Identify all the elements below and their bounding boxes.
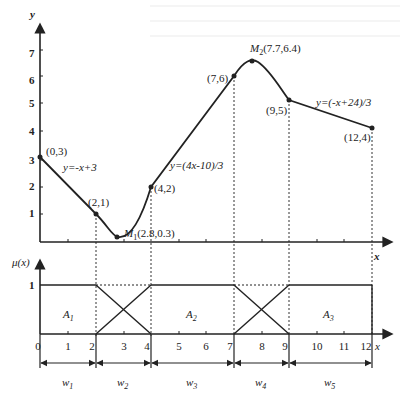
set-label-a2: A2 [185, 308, 197, 323]
svg-text:8: 8 [259, 340, 265, 352]
figure: y x 1 2 3 4 5 6 7 [0, 0, 408, 394]
label-point-9-5: (9,5) [266, 104, 287, 117]
piecewise-curve [40, 60, 372, 237]
svg-text:9: 9 [282, 340, 288, 352]
svg-text:10: 10 [312, 340, 324, 352]
svg-text:11: 11 [339, 340, 350, 352]
width-label-w2: w2 [117, 376, 128, 391]
label-point-2-1: (2,1) [88, 196, 109, 209]
top-chart: y x 1 2 3 4 5 6 7 [28, 8, 388, 336]
label-m1: M1(2.8,0.3) [123, 227, 175, 242]
svg-text:2: 2 [29, 180, 35, 192]
svg-text:7: 7 [227, 340, 233, 352]
svg-text:6: 6 [203, 340, 209, 352]
width-label-w3: w3 [186, 376, 197, 391]
y-axis-label: y [28, 8, 35, 20]
label-m2: M2(7.7,6.4) [249, 42, 301, 57]
svg-text:4: 4 [144, 340, 150, 352]
label-point-0-3: (0,3) [46, 145, 67, 158]
width-label-w5: w5 [324, 376, 335, 391]
mu-axis-label: μ(x) [11, 256, 30, 269]
label-point-12-4: (12,4) [344, 131, 371, 144]
equation-3: y=(-x+24)/3 [315, 96, 372, 109]
svg-text:4: 4 [29, 125, 35, 137]
svg-text:7: 7 [29, 47, 35, 59]
label-point-7-6: (7,6) [207, 72, 228, 85]
width-label-w4: w4 [255, 376, 266, 391]
bottom-x-tick-labels: 0 1 2 3 4 5 6 7 8 9 10 11 12 [35, 340, 371, 352]
curve-points [38, 59, 375, 240]
bottom-chart: μ(x) 1 x [11, 256, 388, 391]
svg-text:5: 5 [29, 97, 35, 109]
svg-text:3: 3 [121, 340, 127, 352]
svg-text:1: 1 [29, 207, 35, 219]
background-bleed-text [150, 5, 400, 37]
x-axis-label: x [373, 250, 380, 262]
svg-text:2: 2 [89, 340, 95, 352]
mu-tick-1: 1 [29, 279, 35, 291]
svg-text:6: 6 [29, 74, 35, 86]
svg-text:1: 1 [65, 340, 71, 352]
set-label-a3: A3 [322, 308, 334, 323]
set-label-a1: A1 [62, 308, 74, 323]
y-tick-labels: 1 2 3 4 5 6 7 [29, 47, 35, 219]
label-point-4-2: (4,2) [154, 182, 175, 195]
equation-2: y=(4x-10)/3 [169, 159, 224, 172]
equation-1: y=-x+3 [62, 161, 97, 173]
svg-text:3: 3 [29, 154, 35, 166]
svg-text:12: 12 [361, 340, 372, 352]
bottom-x-axis-label: x [374, 340, 380, 352]
svg-text:5: 5 [176, 340, 182, 352]
width-label-w1: w1 [62, 376, 73, 391]
